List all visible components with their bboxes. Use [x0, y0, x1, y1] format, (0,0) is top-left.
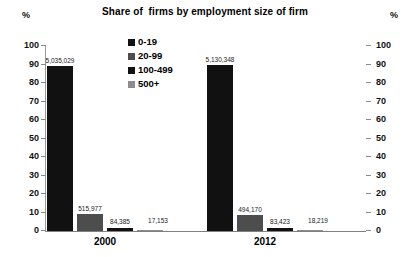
right-tick-mark — [366, 156, 371, 157]
left-tick-label: 80 — [0, 77, 39, 87]
right-tick-label: 70 — [376, 96, 411, 106]
chart-title: Share of firms by employment size of fir… — [60, 6, 350, 17]
legend-item[interactable]: 0-19 — [128, 35, 208, 49]
legend-swatch-icon — [128, 81, 135, 88]
right-axis-unit-label: % — [390, 10, 398, 20]
right-tick-label: 50 — [376, 133, 411, 143]
right-tick-label: 30 — [376, 170, 411, 180]
right-tick-label: 100 — [376, 40, 411, 50]
right-tick-mark — [366, 45, 371, 46]
bar-value-label: 494,170 — [222, 206, 278, 213]
bar — [297, 230, 323, 232]
left-axis-unit-label: % — [22, 10, 30, 20]
legend-item[interactable]: 500+ — [128, 77, 208, 91]
legend-swatch-icon — [128, 39, 135, 46]
right-tick-label: 80 — [376, 77, 411, 87]
legend-label: 500+ — [138, 79, 159, 89]
right-tick-mark — [366, 101, 371, 102]
right-tick-mark — [366, 175, 371, 176]
legend-label: 100-499 — [138, 65, 173, 75]
legend-item[interactable]: 100-499 — [128, 63, 208, 77]
bar-chart: % % Share of firms by employment size of… — [0, 0, 411, 257]
x-axis-baseline — [46, 231, 366, 232]
right-tick-mark — [366, 230, 371, 231]
right-tick-mark — [366, 64, 371, 65]
bar — [267, 228, 293, 231]
left-tick-label: 20 — [0, 188, 39, 198]
right-tick-label: 10 — [376, 207, 411, 217]
left-tick-label: 70 — [0, 96, 39, 106]
left-tick-label: 40 — [0, 151, 39, 161]
legend-item[interactable]: 20-99 — [128, 49, 208, 63]
right-tick-mark — [366, 82, 371, 83]
right-tick-label: 0 — [376, 225, 411, 235]
right-tick-label: 40 — [376, 151, 411, 161]
left-tick-label: 0 — [0, 225, 39, 235]
legend-swatch-icon — [128, 67, 135, 74]
legend-label: 0-19 — [138, 37, 157, 47]
left-tick-label: 60 — [0, 114, 39, 124]
left-tick-label: 100 — [0, 40, 39, 50]
category-label: 2012 — [225, 236, 305, 247]
right-tick-mark — [366, 212, 371, 213]
right-tick-mark — [366, 138, 371, 139]
left-tick-label: 10 — [0, 207, 39, 217]
right-tick-mark — [366, 193, 371, 194]
legend-swatch-icon — [128, 53, 135, 60]
right-tick-label: 20 — [376, 188, 411, 198]
left-tick-label: 30 — [0, 170, 39, 180]
legend-label: 20-99 — [138, 51, 162, 61]
left-tick-label: 50 — [0, 133, 39, 143]
bar-value-label: 18,219 — [290, 217, 346, 224]
category-label: 2000 — [65, 236, 145, 247]
right-tick-mark — [366, 119, 371, 120]
chart-legend: 0-1920-99100-499500+ — [128, 35, 208, 91]
right-tick-label: 90 — [376, 59, 411, 69]
right-tick-label: 60 — [376, 114, 411, 124]
